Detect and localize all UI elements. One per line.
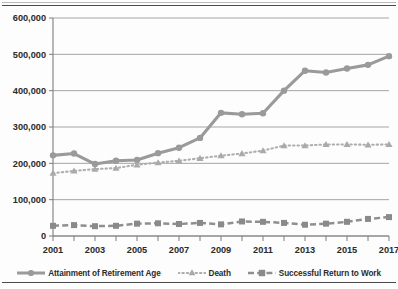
data-point-marker [71, 150, 77, 156]
x-axis-tick-label: 2013 [295, 245, 315, 255]
x-axis-tick-label: 2009 [211, 245, 231, 255]
triangle-dotted-marker-icon [178, 268, 206, 278]
data-point-marker [281, 220, 287, 226]
figure-bottom-rule [2, 282, 396, 283]
data-point-marker [344, 219, 350, 225]
data-point-marker [239, 218, 245, 224]
data-point-marker [218, 221, 224, 227]
legend-item-successful-return-to-work[interactable]: Successful Return to Work [248, 268, 381, 278]
series-path [53, 144, 389, 173]
data-point-marker [386, 214, 392, 220]
data-point-marker [218, 110, 224, 116]
legend-item-attainment-of-retirement-age[interactable]: Attainment of Retirement Age [17, 268, 160, 278]
data-point-marker [365, 62, 371, 68]
y-axis-tick-label: 100,000 [13, 195, 46, 205]
x-axis-tick-label: 2007 [169, 245, 189, 255]
data-point-marker [239, 111, 245, 117]
y-axis-tick-label: 500,000 [13, 50, 46, 60]
legend-label-attainment-of-retirement-age: Attainment of Retirement Age [48, 269, 160, 278]
data-point-marker [323, 69, 329, 75]
x-axis-tick-label: 2011 [253, 245, 273, 255]
data-point-marker [176, 145, 182, 151]
data-point-marker [365, 216, 371, 222]
data-point-marker [197, 220, 203, 226]
legend-label-death: Death [209, 269, 231, 278]
data-point-marker [50, 152, 56, 158]
y-axis-tick-label: 400,000 [13, 86, 46, 96]
y-axis-tick-label: 300,000 [13, 122, 46, 132]
data-point-marker [49, 170, 56, 176]
figure-top-faint-rule [2, 2, 396, 3]
chart-figure: 0100,000200,000300,000400,000500,000600,… [0, 0, 398, 289]
square-dashed-marker-icon [248, 268, 276, 278]
line-chart: 0100,000200,000300,000400,000500,000600,… [0, 8, 398, 260]
legend-item-death[interactable]: Death [178, 268, 231, 278]
data-point-marker [386, 53, 392, 59]
y-axis-tick-label: 0 [41, 231, 46, 241]
data-point-marker [155, 220, 161, 226]
data-point-marker [260, 219, 266, 225]
data-point-marker [197, 135, 203, 141]
data-point-marker [50, 223, 56, 229]
figure-top-rule [2, 5, 396, 6]
series-death [49, 141, 392, 176]
x-axis-tick-label: 2001 [43, 245, 63, 255]
y-axis-tick-label: 600,000 [13, 13, 46, 23]
data-point-marker [113, 158, 119, 164]
data-point-marker [92, 223, 98, 229]
chart-legend: Attainment of Retirement Age Death Succe… [0, 268, 398, 278]
data-point-marker [71, 222, 77, 228]
x-axis-tick-label: 2017 [379, 245, 398, 255]
data-point-marker [155, 150, 161, 156]
y-axis-tick-label: 200,000 [13, 159, 46, 169]
data-point-marker [176, 221, 182, 227]
data-point-marker [344, 65, 350, 71]
data-point-marker [260, 110, 266, 116]
series-successful-return-to-work [50, 214, 392, 229]
data-point-marker [302, 222, 308, 228]
x-axis-tick-label: 2003 [85, 245, 105, 255]
data-point-marker [281, 87, 287, 93]
series-attainment-of-retirement-age [50, 53, 392, 167]
data-point-marker [323, 221, 329, 227]
plot-area: 0100,000200,000300,000400,000500,000600,… [0, 8, 398, 260]
x-axis-tick-label: 2015 [337, 245, 357, 255]
x-axis-tick-label: 2005 [127, 245, 147, 255]
data-point-marker [302, 67, 308, 73]
data-point-marker [134, 221, 140, 227]
data-point-marker [113, 223, 119, 229]
circle-line-marker-icon [17, 268, 45, 278]
legend-label-successful-return-to-work: Successful Return to Work [279, 269, 381, 278]
